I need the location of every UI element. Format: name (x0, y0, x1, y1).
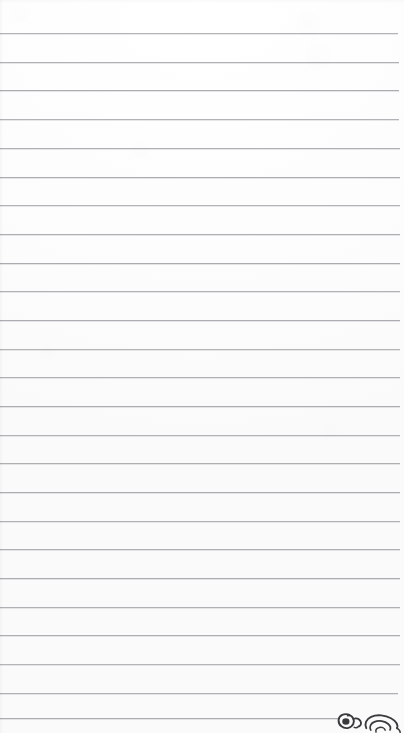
ruled-line (0, 119, 399, 120)
ruled-line (0, 635, 400, 636)
ruled-line (0, 148, 400, 149)
handwriting-doodle (334, 706, 404, 733)
paper-surface (0, 0, 404, 733)
ruled-line (0, 320, 400, 321)
top-edge-shadow (0, 0, 404, 3)
scan-artifact-overlay (0, 0, 404, 733)
scanned-page (0, 0, 404, 733)
ruled-line (0, 406, 400, 407)
ruled-line (0, 693, 398, 694)
ruled-line (0, 90, 399, 91)
ruled-line (0, 718, 340, 719)
ruled-line (0, 578, 400, 579)
ruled-line (0, 177, 400, 178)
ruled-line (0, 62, 399, 63)
ruled-line (0, 33, 398, 34)
ruled-line (0, 521, 400, 522)
ruled-line (0, 291, 400, 292)
ruled-line (0, 492, 400, 493)
ruled-line (0, 435, 400, 436)
ruled-line (0, 607, 400, 608)
ruled-line (0, 463, 400, 464)
ruled-line (0, 664, 400, 665)
ruled-line (0, 549, 400, 550)
ruled-line (0, 377, 400, 378)
ruled-line (0, 234, 400, 235)
left-edge-shadow (0, 0, 3, 733)
ruled-line (0, 205, 400, 206)
ruled-line (0, 263, 400, 264)
ruled-line (0, 349, 400, 350)
